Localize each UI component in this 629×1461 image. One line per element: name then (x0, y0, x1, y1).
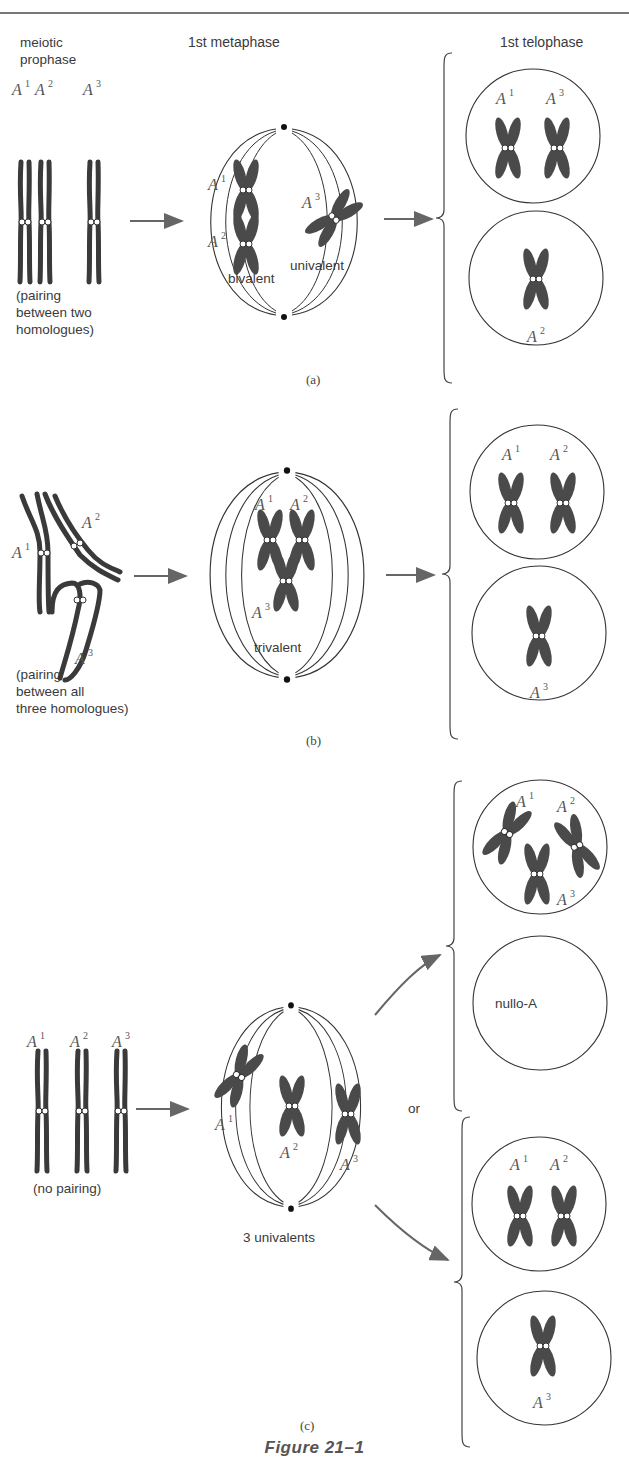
svg-text:3: 3 (559, 87, 564, 98)
svg-text:1: 1 (25, 78, 30, 89)
svg-text:A: A (111, 1033, 122, 1050)
svg-text:1: 1 (268, 493, 273, 504)
svg-text:A: A (515, 793, 526, 810)
panel-c-option1-cell-1: A1 A2 A3 (473, 780, 607, 914)
svg-text:A: A (34, 81, 45, 98)
svg-text:2: 2 (540, 325, 545, 336)
svg-text:A: A (529, 684, 540, 701)
svg-text:2: 2 (48, 78, 53, 89)
svg-text:A: A (74, 650, 85, 667)
svg-text:A: A (11, 544, 22, 561)
meiosis-diagram: A1 A2 A3 A1 A2 A3 bivalent univalent A1 … (0, 0, 629, 1461)
svg-text:A: A (207, 233, 218, 250)
svg-text:A: A (207, 176, 218, 193)
svg-text:1: 1 (25, 541, 30, 552)
svg-text:A: A (526, 328, 537, 345)
panel-a-metaphase: A1 A2 A3 bivalent univalent (207, 124, 367, 320)
svg-text:3: 3 (546, 1391, 551, 1402)
svg-text:3: 3 (265, 601, 270, 612)
panel-c-option2-cell-1: A1 A2 (472, 1137, 606, 1271)
svg-text:A: A (549, 446, 560, 463)
svg-text:A: A (69, 1033, 80, 1050)
svg-text:2: 2 (570, 795, 575, 806)
svg-text:A: A (251, 604, 262, 621)
svg-text:A: A (254, 496, 265, 513)
svg-text:2: 2 (293, 1141, 298, 1152)
univalent-label: univalent (290, 258, 344, 273)
svg-text:A: A (556, 798, 567, 815)
svg-text:A: A (289, 496, 300, 513)
svg-text:A: A (82, 81, 93, 98)
svg-text:A: A (545, 90, 556, 107)
bivalent-label: bivalent (228, 271, 275, 286)
panel-c-metaphase: A1 A2 A3 (210, 1002, 364, 1212)
svg-text:3: 3 (353, 1153, 358, 1164)
panel-c-option1-cell-2-nullo (473, 936, 607, 1070)
svg-text:A: A (532, 1394, 543, 1411)
panel-a-prophase: A1 A2 A3 (11, 78, 101, 282)
svg-text:2: 2 (563, 1153, 568, 1164)
panel-b-prophase: A1 A2 A3 (11, 494, 120, 680)
panel-a-telophase-cell-1: A1 A3 (466, 69, 600, 203)
svg-text:1: 1 (509, 87, 514, 98)
panel-c-option2-cell-2: A3 (477, 1291, 611, 1425)
svg-text:1: 1 (515, 443, 520, 454)
arrow-icon (375, 955, 440, 1015)
svg-text:2: 2 (221, 230, 226, 241)
svg-text:3: 3 (125, 1030, 130, 1041)
svg-text:A: A (495, 90, 506, 107)
panel-c: A1 A2 A3 A1 A2 A3 A1 A2 A3 (26, 780, 611, 1447)
svg-text:A: A (301, 194, 312, 211)
panel-a: A1 A2 A3 A1 A2 A3 bivalent univalent A1 … (11, 53, 603, 383)
panel-c-prophase: A1 A2 A3 (26, 1030, 130, 1171)
svg-text:2: 2 (95, 511, 100, 522)
svg-text:1: 1 (228, 1113, 233, 1124)
svg-text:1: 1 (221, 173, 226, 184)
svg-text:3: 3 (543, 681, 548, 692)
svg-text:A: A (509, 1156, 520, 1173)
svg-text:A: A (556, 891, 567, 908)
panel-a-telophase-cell-2: A2 (469, 211, 603, 345)
svg-text:2: 2 (303, 493, 308, 504)
svg-text:A: A (11, 81, 22, 98)
panel-b-telophase-cell-1: A1 A2 (470, 425, 604, 559)
svg-text:3: 3 (570, 888, 575, 899)
svg-text:2: 2 (563, 443, 568, 454)
svg-text:3: 3 (88, 647, 93, 658)
svg-text:3: 3 (96, 78, 101, 89)
svg-text:3: 3 (315, 191, 320, 202)
panel-b-metaphase: A1 A2 A3 trivalent (210, 467, 364, 683)
svg-text:A: A (339, 1156, 350, 1173)
svg-text:1: 1 (40, 1030, 45, 1041)
panel-b: A1 A2 A3 A1 A2 A3 trivalent A1 A2 A3 (11, 409, 606, 739)
svg-text:A: A (214, 1116, 225, 1133)
svg-text:A: A (26, 1033, 37, 1050)
svg-text:1: 1 (529, 790, 534, 801)
svg-text:A: A (501, 446, 512, 463)
svg-text:2: 2 (83, 1030, 88, 1041)
svg-text:A: A (549, 1156, 560, 1173)
svg-text:A: A (81, 514, 92, 531)
svg-text:1: 1 (523, 1153, 528, 1164)
trivalent-label: trivalent (254, 640, 302, 655)
svg-text:A: A (279, 1144, 290, 1161)
arrow-icon (375, 1205, 448, 1260)
panel-b-telophase-cell-2: A3 (472, 566, 606, 701)
